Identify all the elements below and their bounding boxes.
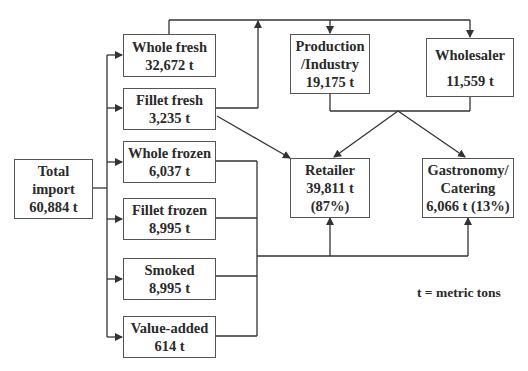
- whole-fresh-node: Whole fresh 32,672 t: [123, 34, 216, 77]
- fillet-frozen-value: 8,995 t: [149, 219, 190, 237]
- smoked-label: Smoked: [145, 261, 195, 279]
- smoked-node: Smoked 8,995 t: [123, 258, 216, 300]
- gastronomy-node: Gastronomy/ Catering 6,066 t (13%): [422, 158, 514, 218]
- fillet-fresh-label: Fillet fresh: [136, 91, 203, 109]
- gastronomy-label-2: Catering: [441, 179, 496, 197]
- fillet-fresh-value: 3,235 t: [149, 109, 190, 127]
- gastronomy-label: Gastronomy/: [427, 161, 508, 179]
- smoked-value: 8,995 t: [149, 279, 190, 297]
- production-label: Production: [295, 37, 364, 55]
- unit-legend: t = metric tons: [417, 285, 501, 301]
- retailer-node: Retailer 39,811 t (87%): [290, 158, 370, 218]
- whole-frozen-label: Whole frozen: [128, 144, 211, 162]
- flow-diagram: Total import 60,884 t Whole fresh 32,672…: [0, 0, 528, 371]
- value-added-node: Value-added 614 t: [123, 316, 216, 358]
- wholesaler-value: 11,559 t: [446, 68, 494, 94]
- whole-fresh-label: Whole fresh: [132, 38, 207, 56]
- whole-frozen-value: 6,037 t: [149, 162, 190, 180]
- fillet-frozen-node: Fillet frozen 8,995 t: [123, 198, 216, 240]
- total-import-node: Total import 60,884 t: [14, 159, 93, 219]
- retailer-value: 39,811 t: [306, 179, 354, 197]
- retailer-label: Retailer: [305, 161, 355, 179]
- fillet-fresh-node: Fillet fresh 3,235 t: [123, 88, 216, 130]
- production-node: Production /Industry 19,175 t: [290, 34, 370, 94]
- production-label-2: /Industry: [301, 55, 359, 73]
- value-added-label: Value-added: [131, 319, 209, 337]
- total-import-label-2: import: [32, 180, 75, 198]
- retailer-share: (87%): [311, 197, 350, 215]
- total-import-label: Total: [38, 162, 70, 180]
- whole-frozen-node: Whole frozen 6,037 t: [123, 141, 216, 183]
- whole-fresh-value: 32,672 t: [145, 56, 193, 74]
- wholesaler-node: Wholesaler 11,559 t: [426, 38, 514, 97]
- gastronomy-value: 6,066 t (13%): [426, 197, 509, 215]
- production-value: 19,175 t: [306, 73, 354, 91]
- fillet-frozen-label: Fillet frozen: [132, 201, 207, 219]
- value-added-value: 614 t: [154, 337, 184, 355]
- wholesaler-label: Wholesaler: [435, 42, 505, 68]
- total-import-value: 60,884 t: [29, 198, 77, 216]
